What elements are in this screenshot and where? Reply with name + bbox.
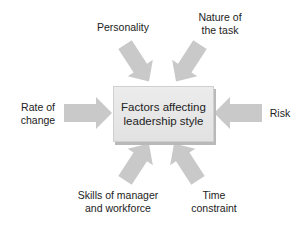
label-rate-line1: Rate of bbox=[16, 101, 60, 114]
label-time-line2: constraint bbox=[184, 202, 244, 215]
center-line2: leadership style bbox=[121, 114, 206, 128]
label-skills-line2: and workforce bbox=[74, 202, 162, 215]
arrow-rate bbox=[64, 97, 112, 129]
arrow-time bbox=[161, 135, 210, 188]
center-line1: Factors affecting bbox=[121, 100, 206, 114]
label-nature: Nature of the task bbox=[190, 11, 250, 37]
arrow-skills bbox=[112, 135, 161, 188]
arrow-risk bbox=[214, 97, 262, 129]
label-time: Time constraint bbox=[184, 189, 244, 215]
arrow-nature bbox=[163, 36, 212, 89]
center-box: Factors affecting leadership style bbox=[113, 86, 214, 142]
label-nature-line2: the task bbox=[190, 24, 250, 37]
label-risk-line1: Risk bbox=[266, 107, 294, 120]
label-rate-line2: change bbox=[16, 114, 60, 127]
label-skills: Skills of manager and workforce bbox=[74, 189, 162, 215]
label-personality-line1: Personality bbox=[88, 21, 158, 34]
label-time-line1: Time bbox=[184, 189, 244, 202]
label-skills-line1: Skills of manager bbox=[74, 189, 162, 202]
arrow-personality bbox=[112, 36, 161, 89]
label-risk: Risk bbox=[266, 107, 294, 120]
label-personality: Personality bbox=[88, 21, 158, 34]
label-rate: Rate of change bbox=[16, 101, 60, 127]
label-nature-line1: Nature of bbox=[190, 11, 250, 24]
